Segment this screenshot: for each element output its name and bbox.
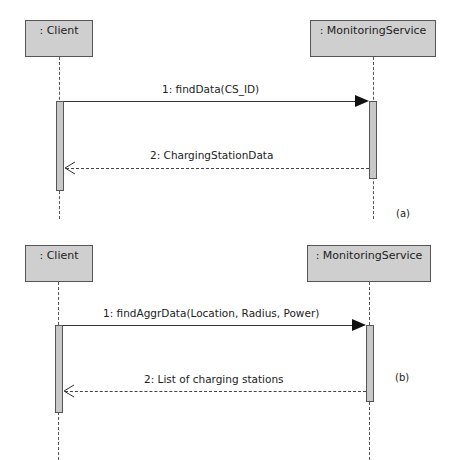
message-reply bbox=[66, 168, 369, 169]
lifeline-label: : MonitoringService bbox=[316, 249, 423, 262]
activation-bar-monitoring-service bbox=[369, 101, 377, 179]
message-label: 2: List of charging stations bbox=[144, 373, 284, 385]
message-label: 1: findData(CS_ID) bbox=[162, 83, 259, 95]
activation-bar-monitoring-service bbox=[366, 325, 374, 402]
lifeline-label: : MonitoringService bbox=[320, 24, 427, 37]
figure-caption: (a) bbox=[396, 208, 410, 219]
lifeline-label: : Client bbox=[39, 24, 78, 37]
activation-bar-client bbox=[56, 101, 64, 191]
open-arrowhead-icon bbox=[63, 385, 75, 397]
lifeline-head-client: : Client bbox=[25, 20, 93, 57]
sequence-diagram-a: : Client : MonitoringService 1: findData… bbox=[0, 0, 457, 228]
message-label: 1: findAggrData(Location, Radius, Power) bbox=[103, 307, 319, 319]
message-call bbox=[63, 325, 353, 326]
filled-arrowhead-icon bbox=[352, 319, 366, 331]
message-reply bbox=[65, 391, 366, 392]
message-label: 2: ChargingStationData bbox=[150, 149, 273, 161]
figure-caption: (b) bbox=[395, 372, 409, 383]
filled-arrowhead-icon bbox=[355, 95, 369, 107]
activation-bar-client bbox=[55, 325, 63, 413]
lifeline-head-monitoring-service: : MonitoringService bbox=[307, 245, 431, 282]
lifeline-head-monitoring-service: : MonitoringService bbox=[310, 20, 436, 57]
sequence-diagram-b: : Client : MonitoringService 1: findAggr… bbox=[0, 228, 457, 455]
open-arrowhead-icon bbox=[64, 162, 76, 174]
lifeline-label: : Client bbox=[39, 249, 78, 262]
message-call bbox=[64, 101, 359, 102]
lifeline-head-client: : Client bbox=[25, 245, 93, 282]
